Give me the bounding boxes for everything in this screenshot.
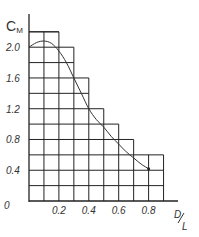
curve-end-point [147,167,150,170]
y-tick-label: 2.0 [5,42,20,53]
origin-label: 0 [4,200,10,211]
x-axis-label-numerator: D [174,209,181,220]
x-tick-label: 0.6 [112,205,126,216]
grid [29,32,164,201]
y-tick-label: 1.6 [6,73,20,84]
x-tick-label: 0.2 [52,205,66,216]
y-tick-labels: 2.01.61.20.80.4 [5,42,20,176]
x-axis-label-denominator: L [182,221,188,232]
cm-vs-dl-chart: CM 2.01.61.20.80.4 0.20.40.60.8 0 D L [0,0,199,237]
y-tick-label: 0.4 [6,165,20,176]
x-tick-label: 0.4 [82,205,96,216]
y-tick-label: 0.8 [6,134,20,145]
x-tick-labels: 0.20.40.60.8 [52,205,156,216]
x-tick-label: 0.8 [142,205,156,216]
y-tick-label: 1.2 [6,104,20,115]
y-axis-label: CM [6,18,23,35]
